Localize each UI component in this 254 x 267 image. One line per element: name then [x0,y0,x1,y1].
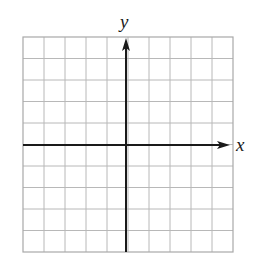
y-axis-label: y [118,11,129,32]
coordinate-grid-diagram: x y [0,0,254,267]
axes [23,38,230,252]
x-axis-label: x [235,134,245,155]
